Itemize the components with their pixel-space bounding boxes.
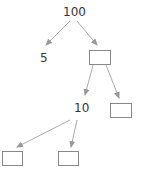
tree-edges <box>0 0 143 171</box>
left-factor: 5 <box>40 51 48 65</box>
blank-box-3[interactable] <box>2 151 23 166</box>
blank-box-2[interactable] <box>110 103 132 118</box>
blank-box-4[interactable] <box>58 151 79 166</box>
root-value: 100 <box>63 5 86 19</box>
blank-box-1[interactable] <box>89 50 111 65</box>
mid-value: 10 <box>74 101 89 115</box>
